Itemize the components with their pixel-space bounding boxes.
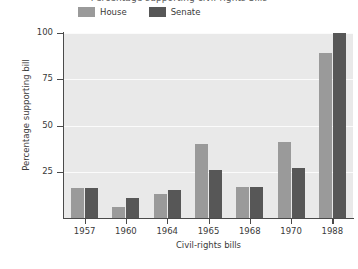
bar-group-1988 (319, 33, 346, 218)
y-tick (57, 126, 63, 127)
legend-label-senate: Senate (171, 7, 201, 17)
bar-senate-1957 (85, 188, 98, 218)
x-tick-label-1964: 1964 (156, 226, 178, 236)
bar-senate-1970 (292, 168, 305, 218)
x-tick (85, 219, 86, 224)
legend-label-house: House (100, 7, 127, 17)
x-tick-label-1968: 1968 (239, 226, 261, 236)
y-axis-title: Percentage supporting bill (21, 40, 31, 190)
bar-group-1957 (71, 33, 98, 218)
x-tick (332, 219, 333, 224)
bar-house-1957 (71, 188, 84, 218)
bar-group-1960 (112, 33, 139, 218)
x-tick-label-1965: 1965 (198, 226, 220, 236)
x-tick (250, 219, 251, 224)
y-axis-ticks: 255075100 (0, 0, 63, 269)
x-tick (126, 219, 127, 224)
x-tick-label-1970: 1970 (280, 226, 302, 236)
bar-group-1970 (278, 33, 305, 218)
bar-house-1964 (154, 194, 167, 218)
legend-swatch-senate (149, 7, 166, 17)
x-tick-label-1960: 1960 (115, 226, 137, 236)
bar-house-1988 (319, 53, 332, 218)
bar-chart-figure: Percentage supporting civil-rights bills… (0, 0, 358, 269)
x-tick (209, 219, 210, 224)
bar-house-1965 (195, 144, 208, 218)
y-tick-label: 100 (0, 27, 53, 37)
bar-house-1968 (236, 187, 249, 218)
bar-senate-1988 (333, 33, 346, 218)
bar-house-1970 (278, 142, 291, 218)
bar-group-1964 (154, 33, 181, 218)
x-tick (167, 219, 168, 224)
bar-group-1968 (236, 33, 263, 218)
legend-item-senate: Senate (149, 7, 201, 17)
bar-group-1965 (195, 33, 222, 218)
bar-house-1960 (112, 207, 125, 218)
bar-senate-1965 (209, 170, 222, 218)
x-tick-label-1957: 1957 (74, 226, 96, 236)
bar-senate-1960 (126, 198, 139, 218)
y-tick (57, 33, 63, 34)
x-tick-label-1988: 1988 (322, 226, 344, 236)
x-tick (291, 219, 292, 224)
legend-item-house: House (78, 7, 127, 17)
y-tick (57, 79, 63, 80)
y-tick (57, 172, 63, 173)
bar-senate-1964 (168, 190, 181, 218)
plot-area (64, 33, 353, 218)
bar-senate-1968 (250, 187, 263, 218)
chart-legend: HouseSenate (78, 7, 200, 17)
legend-swatch-house (78, 7, 95, 17)
y-axis-line (63, 32, 64, 219)
x-axis-title: Civil-rights bills (64, 240, 353, 250)
